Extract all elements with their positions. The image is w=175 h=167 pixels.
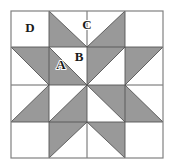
region-label-d: D — [25, 20, 34, 35]
region-label-a: A — [56, 57, 66, 72]
quilt-block-svg: DCAB — [0, 0, 175, 167]
quilt-block-figure: DCAB — [0, 0, 175, 167]
region-label-c: C — [82, 17, 91, 32]
region-label-b: B — [75, 49, 84, 64]
